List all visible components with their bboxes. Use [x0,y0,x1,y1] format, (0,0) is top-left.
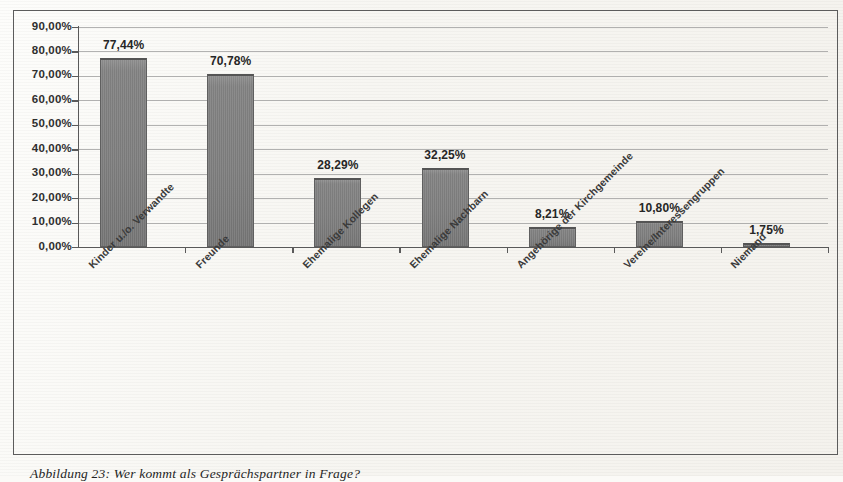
x-axis-tick [614,247,615,253]
y-axis-tick-label: 70,00% [8,68,72,80]
x-axis-tick [399,247,400,253]
y-axis-tick-label: 0,00% [8,240,72,252]
y-axis-tick-label: 40,00% [8,142,72,154]
x-axis-tick [507,247,508,253]
bar-value-label: 70,78% [186,54,276,68]
x-axis-tick [292,247,293,253]
y-axis-tick-label: 30,00% [8,166,72,178]
bar-value-label: 1,75% [721,223,811,237]
y-axis-tick-label: 50,00% [8,117,72,129]
x-axis-tick [721,247,722,253]
y-axis-labels: 90,00%80,00%70,00%60,00%50,00%40,00%30,0… [4,0,72,476]
bar-value-label: 32,25% [400,148,490,162]
x-axis-tick [185,247,186,253]
bar-value-label: 77,44% [79,38,169,52]
y-axis-tick-label: 20,00% [8,191,72,203]
y-axis-tick-label: 80,00% [8,44,72,56]
figure-caption: Abbildung 23: Wer kommt als Gesprächspar… [30,466,360,482]
bar-value-label: 28,29% [293,158,383,172]
y-axis-tick-label: 60,00% [8,93,72,105]
bar [207,74,254,247]
y-axis-tick-label: 90,00% [8,20,72,32]
x-axis-tick [828,247,829,253]
y-axis-tick-label: 10,00% [8,215,72,227]
